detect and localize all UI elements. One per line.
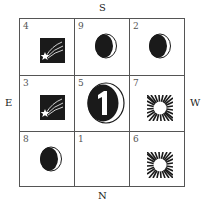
cell-number: 9 (78, 22, 84, 31)
cell-number: 8 (23, 135, 29, 144)
sun-burst-icon (147, 152, 173, 178)
tai-chi-one-moon-icon (87, 82, 125, 124)
cell-number: 3 (23, 79, 29, 88)
cell-number: 2 (133, 22, 139, 31)
crescent-moon-icon (94, 33, 118, 59)
cell-number: 1 (78, 135, 84, 144)
grid-cell-2: 2 (130, 19, 184, 76)
sun-burst-icon (147, 95, 173, 121)
shooting-star-icon (40, 38, 65, 63)
compass-north-label: N (98, 191, 107, 201)
grid-cell-1: 1 (75, 132, 130, 186)
compass-east-label: E (5, 98, 12, 108)
compass-west-label: W (190, 98, 200, 108)
cell-number: 4 (23, 22, 29, 31)
cell-number: 5 (78, 79, 84, 88)
cell-number: 6 (133, 135, 139, 144)
grid-cell-4: 4 (20, 19, 75, 76)
grid-cell-5: 5 (75, 76, 130, 132)
crescent-moon-icon (148, 33, 172, 59)
cell-number: 7 (133, 79, 139, 88)
grid-cell-9: 9 (75, 19, 130, 76)
grid-cell-8: 8 (20, 132, 75, 186)
grid-cell-7: 7 (130, 76, 184, 132)
lo-shu-grid: 4 9 2 3 (19, 18, 185, 187)
grid-cell-6: 6 (130, 132, 184, 186)
shooting-star-icon (40, 95, 65, 120)
crescent-moon-icon (39, 146, 63, 172)
grid-cell-3: 3 (20, 76, 75, 132)
compass-south-label: S (99, 3, 106, 13)
